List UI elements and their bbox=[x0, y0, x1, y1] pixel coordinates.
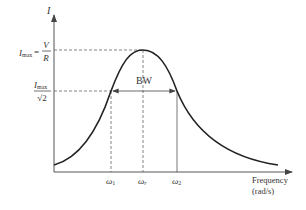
imax-label: Imax bbox=[18, 48, 32, 58]
imax-equals: = bbox=[34, 47, 39, 57]
omegar-label: ωr bbox=[138, 176, 147, 186]
imax-denominator: R bbox=[42, 53, 49, 63]
half-power-denominator: √2 bbox=[37, 93, 46, 103]
resonance-diagram: BW I Imax = V R Imax √2 ω1 ωr ω2 Frequen… bbox=[0, 0, 306, 210]
omega1-label: ω1 bbox=[106, 176, 115, 186]
y-axis-label: I bbox=[46, 5, 51, 16]
resonance-curve bbox=[54, 50, 278, 165]
imax-numerator: V bbox=[43, 40, 50, 50]
x-axis-label-line2: (rad/s) bbox=[252, 186, 274, 196]
bandwidth-label: BW bbox=[136, 75, 153, 86]
omega2-label: ω2 bbox=[172, 176, 181, 186]
x-axis-label-line1: Frequency bbox=[252, 175, 289, 185]
half-power-numerator: Imax bbox=[33, 80, 47, 90]
